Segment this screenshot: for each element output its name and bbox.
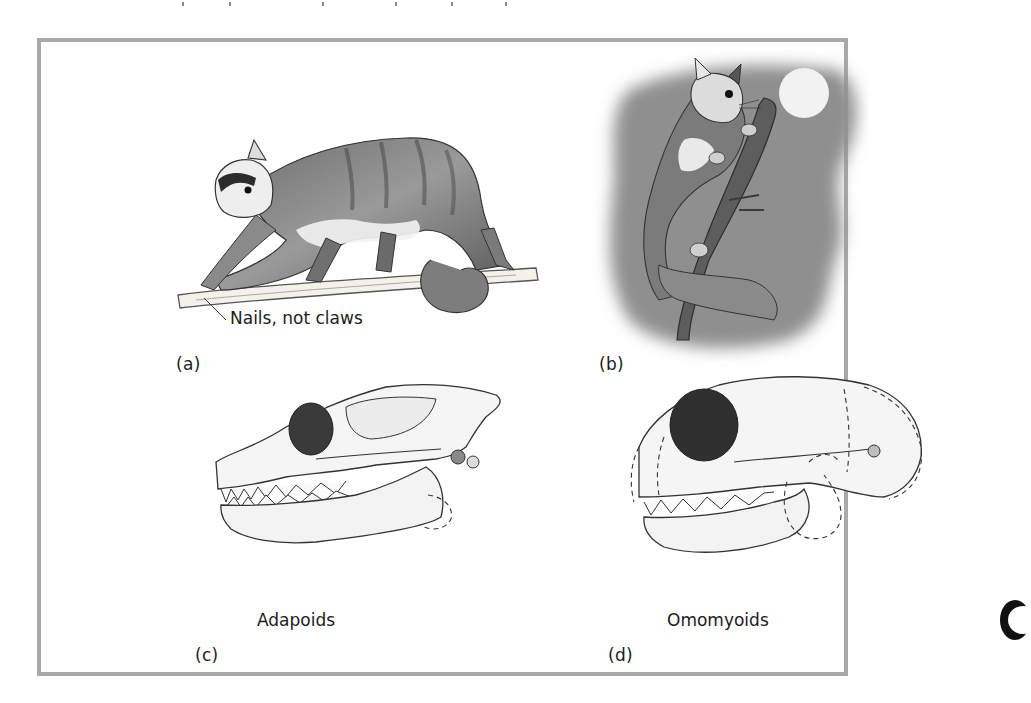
page-top-edge [0, 0, 1012, 34]
text-fragment [505, 2, 507, 6]
adapoid-skull-illustration [196, 367, 516, 567]
text-fragment [451, 2, 453, 6]
omomyoid-skull-illustration [609, 367, 939, 567]
panel-c [196, 367, 516, 567]
nocturnal-primate-illustration [589, 50, 869, 370]
caption-omomyoids: Omomyoids [667, 610, 769, 630]
panel-b [589, 50, 869, 370]
caption-adapoids: Adapoids [257, 610, 335, 630]
text-fragment [395, 2, 397, 6]
text-fragment [229, 2, 231, 6]
text-fragment [322, 2, 324, 6]
panel-label-c: (c) [195, 645, 219, 665]
page-margin-glyph [1000, 600, 1030, 640]
panel-label-d: (d) [608, 645, 633, 665]
panel-a: Nails, not claws [176, 120, 546, 360]
annotation-nails: Nails, not claws [230, 308, 363, 328]
panel-d [609, 367, 939, 567]
figure-frame: Nails, not claws (a) [37, 38, 848, 676]
text-fragment [182, 2, 184, 6]
